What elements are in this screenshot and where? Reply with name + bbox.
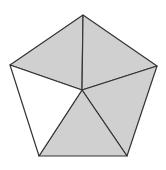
pentagon-diagram <box>0 0 166 170</box>
